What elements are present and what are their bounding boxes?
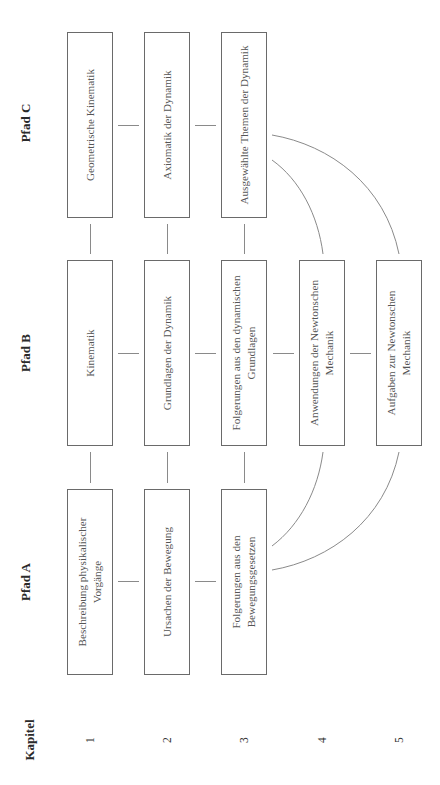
path-b-chapter-4-box: Anwendungen der Newtonschen Mechanik	[299, 260, 345, 446]
box-label: Ursachen der Bewegung	[160, 492, 175, 672]
connector-b-a-2	[167, 452, 168, 483]
chapter-number-3: 3	[238, 737, 250, 743]
path-b-chapter-1-box: Kinematik	[67, 260, 113, 446]
box-label: Beschreibung physikalischer Vorgänge	[75, 500, 105, 665]
path-a-chapter-2-box: Ursachen der Bewegung	[144, 489, 190, 675]
box-label: Ausgewählte Themen der Dynamik	[237, 45, 252, 205]
connector-b-4-5	[350, 353, 371, 354]
connector-b-1-2	[118, 353, 139, 354]
connector-b-3-4	[273, 353, 294, 354]
path-label-c: Pfad C	[18, 104, 34, 143]
connector-c-2-3	[195, 125, 216, 126]
curve-a3-b5	[272, 452, 399, 570]
chapter-number-4: 4	[316, 737, 328, 743]
connector-b-a-3	[244, 452, 245, 483]
path-c-chapter-2-box: Axiomatik der Dynamik	[144, 32, 190, 218]
box-label: Folgerungen aus den dynamischen Grundlag…	[229, 271, 259, 436]
chapter-number-5: 5	[393, 737, 405, 743]
chapter-number-1: 1	[84, 737, 96, 743]
box-label: Grundlagen der Dynamik	[160, 263, 175, 443]
connector-c-1-2	[118, 125, 139, 126]
connector-c-b-1	[90, 224, 91, 254]
path-a-chapter-1-box: Beschreibung physikalischer Vorgänge	[67, 489, 113, 675]
path-c-chapter-3-box: Ausgewählte Themen der Dynamik	[221, 32, 267, 218]
curve-a3-b4	[272, 452, 323, 546]
connector-a-1-2	[118, 581, 139, 582]
box-label: Folgerungen aus den Bewegungsgesetzen	[229, 502, 259, 662]
box-label: Aufgaben zur Newtonschen Mechanik	[384, 273, 414, 433]
kapitel-label: Kapitel	[22, 719, 38, 760]
curved-connectors	[0, 0, 440, 785]
path-a-chapter-3-box: Folgerungen aus den Bewegungsgesetzen	[221, 489, 267, 675]
curve-c3-b5	[272, 135, 399, 254]
box-label: Geometrische Kinematik	[83, 35, 98, 215]
path-b-chapter-3-box: Folgerungen aus den dynamischen Grundlag…	[221, 260, 267, 446]
box-label: Axiomatik der Dynamik	[160, 35, 175, 215]
path-label-a: Pfad A	[18, 563, 34, 601]
path-c-chapter-1-box: Geometrische Kinematik	[67, 32, 113, 218]
box-label: Anwendungen der Newtonschen Mechanik	[307, 278, 337, 428]
box-label: Kinematik	[83, 263, 98, 443]
curve-c3-b4	[272, 160, 323, 254]
connector-b-a-1	[90, 452, 91, 483]
path-b-chapter-5-box: Aufgaben zur Newtonschen Mechanik	[376, 260, 422, 446]
connector-c-b-2	[167, 224, 168, 254]
connector-c-b-3	[244, 224, 245, 254]
connector-a-2-3	[195, 581, 216, 582]
path-label-b: Pfad B	[18, 334, 34, 372]
connector-b-2-3	[195, 353, 216, 354]
chapter-number-2: 2	[161, 737, 173, 743]
path-b-chapter-2-box: Grundlagen der Dynamik	[144, 260, 190, 446]
